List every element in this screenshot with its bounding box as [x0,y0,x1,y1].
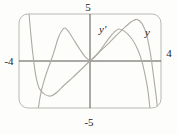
x-max-label: 4 [166,47,172,59]
function-graph-figure: 5 -5 -4 4 y' y [0,0,177,134]
curve-label-y-prime: y' [98,23,107,35]
x-min-label: -4 [4,55,14,67]
y-max-label: 5 [85,1,91,13]
y-min-label: -5 [84,116,94,128]
curve-label-y: y [144,26,150,38]
curve-y-prime [38,28,151,112]
graph-canvas: 5 -5 -4 4 y' y [0,0,177,134]
